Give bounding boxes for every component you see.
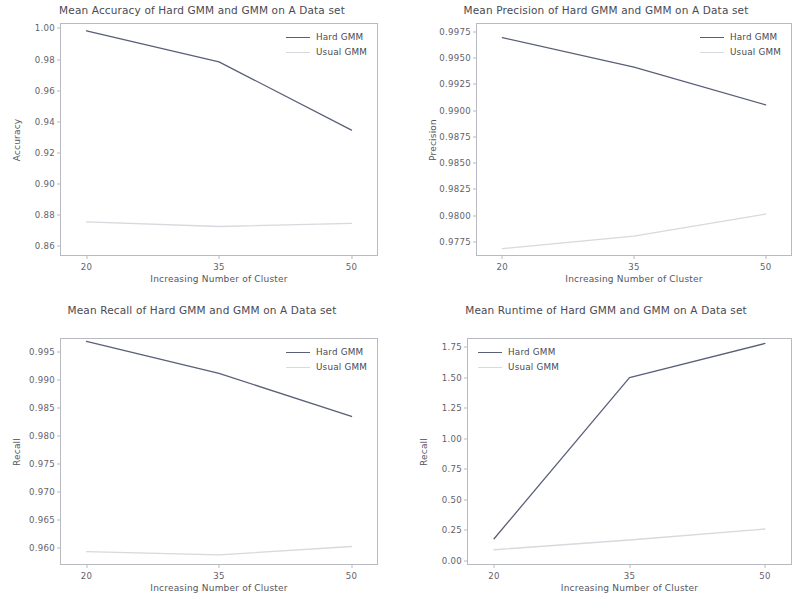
legend-label: Hard GMM — [730, 32, 777, 42]
legend-line-swatch — [286, 52, 310, 53]
chart-title: Mean Recall of Hard GMM and GMM on A Dat… — [0, 304, 404, 316]
y-axis-label: Recall — [12, 437, 22, 465]
x-axis-tick-mark — [351, 565, 352, 568]
y-axis-tick-label: 0.50 — [442, 495, 462, 505]
x-axis-tick-mark — [86, 565, 87, 568]
y-axis-label: Recall — [419, 437, 429, 465]
y-axis-tick-label: 1.50 — [442, 373, 462, 383]
y-axis-tick-label: 0.9975 — [439, 27, 471, 37]
legend: Hard GMMUsual GMM — [283, 345, 370, 374]
legend-line-swatch — [700, 52, 724, 53]
x-axis-tick-mark — [502, 256, 503, 259]
y-axis-tick-label: 0.960 — [29, 543, 55, 553]
chart-panel-accuracy: Mean Accuracy of Hard GMM and GMM on A D… — [0, 0, 404, 300]
x-axis-tick-mark — [86, 256, 87, 259]
y-axis-tick-label: 0.9900 — [439, 106, 471, 116]
y-axis-tick-label: 0.9775 — [439, 237, 471, 247]
y-axis-tick-label: 0.975 — [29, 459, 55, 469]
legend: Hard GMMUsual GMM — [283, 30, 370, 59]
chart-panel-precision: Mean Precision of Hard GMM and GMM on A … — [404, 0, 808, 300]
legend-item[interactable]: Usual GMM — [286, 362, 367, 372]
y-axis-label: Precision — [428, 119, 438, 161]
legend-line-swatch — [478, 352, 502, 353]
y-axis-tick-label: 0.970 — [29, 487, 55, 497]
series-line — [502, 214, 765, 249]
legend-item[interactable]: Hard GMM — [286, 347, 367, 357]
series-line — [494, 529, 765, 550]
legend: Hard GMMUsual GMM — [475, 345, 562, 374]
y-axis-tick-label: 0.965 — [29, 515, 55, 525]
y-axis-tick-label: 0.75 — [442, 464, 462, 474]
x-axis-tick-label: 20 — [81, 262, 93, 272]
chart-panel-recall: Mean Recall of Hard GMM and GMM on A Dat… — [0, 300, 404, 603]
y-axis-tick-label: 0.9800 — [439, 211, 471, 221]
legend-line-swatch — [286, 37, 310, 38]
chart-panel-runtime: Mean Runtime of Hard GMM and GMM on A Da… — [404, 300, 808, 603]
legend-label: Usual GMM — [316, 362, 367, 372]
x-axis-tick-label: 20 — [81, 571, 93, 581]
series-line — [87, 222, 352, 227]
legend-item[interactable]: Usual GMM — [700, 47, 781, 57]
legend-label: Hard GMM — [316, 32, 363, 42]
x-axis-tick-label: 50 — [759, 571, 771, 581]
legend-line-swatch — [286, 352, 310, 353]
y-axis-tick-label: 0.9875 — [439, 132, 471, 142]
x-axis-label: Increasing Number of Cluster — [60, 583, 378, 593]
x-axis-tick-label: 35 — [213, 571, 225, 581]
legend-line-swatch — [286, 367, 310, 368]
x-axis-tick-label: 20 — [497, 262, 509, 272]
y-axis-tick-label: 0.980 — [29, 431, 55, 441]
y-axis-tick-label: 0.9950 — [439, 53, 471, 63]
y-axis-tick-label: 0.995 — [29, 347, 55, 357]
y-axis-tick-label: 0.00 — [442, 556, 462, 566]
y-axis-tick-label: 1.00 — [35, 23, 55, 33]
x-axis-tick-label: 35 — [213, 262, 225, 272]
y-axis-tick-label: 0.92 — [35, 148, 55, 158]
chart-title: Mean Runtime of Hard GMM and GMM on A Da… — [404, 304, 808, 316]
y-axis-tick-label: 1.00 — [442, 434, 462, 444]
y-axis-tick-label: 0.88 — [35, 210, 55, 220]
plot-area: 1.000.980.960.940.920.900.880.86203550In… — [60, 23, 378, 256]
plot-area: 0.9950.9900.9850.9800.9750.9700.9650.960… — [60, 338, 378, 565]
legend-label: Usual GMM — [316, 47, 367, 57]
y-axis-tick-label: 0.90 — [35, 179, 55, 189]
legend-line-swatch — [478, 367, 502, 368]
figure-grid: Mean Accuracy of Hard GMM and GMM on A D… — [0, 0, 808, 603]
y-axis-label: Accuracy — [12, 118, 22, 161]
chart-title: Mean Accuracy of Hard GMM and GMM on A D… — [0, 4, 404, 16]
y-axis-tick-label: 0.94 — [35, 117, 55, 127]
legend-label: Hard GMM — [508, 347, 555, 357]
plot-area: 1.751.501.251.000.750.500.250.00203550In… — [467, 338, 792, 565]
legend-label: Usual GMM — [730, 47, 781, 57]
plot-area: 0.99750.99500.99250.99000.98750.98500.98… — [476, 23, 792, 256]
legend-label: Usual GMM — [508, 362, 559, 372]
x-axis-tick-label: 35 — [624, 571, 636, 581]
y-axis-tick-label: 0.86 — [35, 241, 55, 251]
chart-title: Mean Precision of Hard GMM and GMM on A … — [404, 4, 808, 16]
x-axis-tick-mark — [219, 256, 220, 259]
legend-item[interactable]: Usual GMM — [478, 362, 559, 372]
y-axis-tick-label: 0.9850 — [439, 158, 471, 168]
y-axis-tick-label: 0.990 — [29, 375, 55, 385]
x-axis-tick-mark — [351, 256, 352, 259]
legend-item[interactable]: Hard GMM — [286, 32, 367, 42]
x-axis-tick-mark — [634, 256, 635, 259]
legend-item[interactable]: Hard GMM — [478, 347, 559, 357]
x-axis-tick-mark — [219, 565, 220, 568]
x-axis-tick-label: 50 — [346, 571, 358, 581]
y-axis-tick-label: 0.985 — [29, 403, 55, 413]
x-axis-tick-label: 50 — [346, 262, 358, 272]
x-axis-label: Increasing Number of Cluster — [467, 583, 792, 593]
y-axis-tick-label: 0.9925 — [439, 79, 471, 89]
y-axis-tick-label: 1.75 — [442, 342, 462, 352]
legend-item[interactable]: Usual GMM — [286, 47, 367, 57]
x-axis-tick-mark — [629, 565, 630, 568]
x-axis-label: Increasing Number of Cluster — [60, 274, 378, 284]
y-axis-tick-label: 0.96 — [35, 86, 55, 96]
legend-label: Hard GMM — [316, 347, 363, 357]
legend: Hard GMMUsual GMM — [697, 30, 784, 59]
x-axis-tick-label: 35 — [628, 262, 640, 272]
legend-item[interactable]: Hard GMM — [700, 32, 781, 42]
x-axis-tick-label: 20 — [488, 571, 500, 581]
x-axis-tick-mark — [765, 256, 766, 259]
